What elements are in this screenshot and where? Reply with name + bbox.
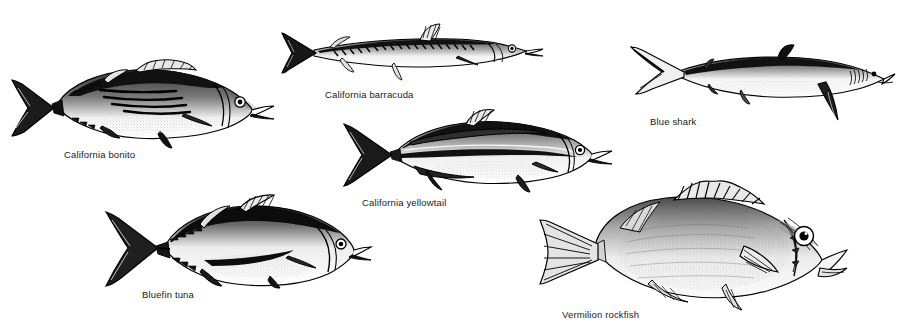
blue-shark-artwork [631, 45, 895, 120]
figure-california-barracuda [282, 22, 544, 84]
label-blue-shark: Blue shark [650, 117, 696, 127]
figure-vermilion-rockfish [534, 180, 850, 310]
bluefin-tuna-artwork [106, 195, 371, 288]
figure-bluefin-tuna [104, 198, 372, 288]
figure-california-bonito [8, 58, 280, 144]
label-vermilion-rockfish: Vermilion rockfish [562, 310, 639, 320]
label-bluefin-tuna: Bluefin tuna [142, 290, 194, 300]
label-california-yellowtail: California yellowtail [362, 198, 446, 208]
figure-blue-shark [628, 44, 896, 124]
label-california-barracuda: California barracuda [325, 90, 414, 100]
vermilion-rockfish-artwork [540, 181, 847, 310]
fish-identification-plate: California bonito [0, 0, 904, 332]
bonito-artwork [12, 60, 274, 148]
label-california-bonito: California bonito [64, 150, 135, 160]
barracuda-artwork [282, 24, 543, 80]
